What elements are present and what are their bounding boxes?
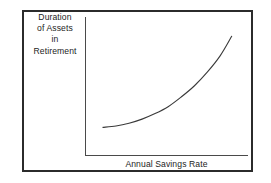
y-axis-label: Duration of Assets in Retirement	[26, 12, 84, 57]
y-axis-label-line-2: of Assets	[26, 23, 84, 34]
y-axis-label-line-3: in	[26, 34, 84, 45]
y-axis-label-line-4: Retirement	[26, 46, 84, 57]
chart-figure: Duration of Assets in Retirement Annual …	[0, 0, 271, 183]
y-axis-label-line-1: Duration	[26, 12, 84, 23]
x-axis-line	[85, 155, 248, 156]
y-axis-line	[85, 17, 86, 156]
x-axis-label: Annual Savings Rate	[85, 159, 248, 170]
